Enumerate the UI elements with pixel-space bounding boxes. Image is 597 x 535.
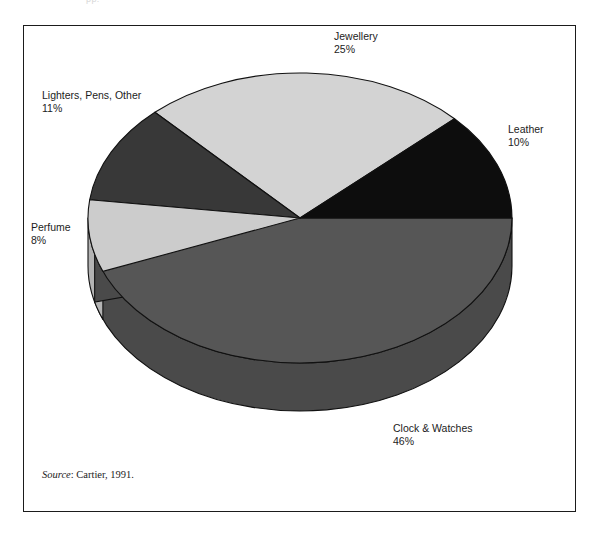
slice-label-jewellery-name: Jewellery [334,30,378,43]
slice-label-lighters-pens-other-name: Lighters, Pens, Other [42,89,141,102]
slice-label-clock-and-watches-name: Clock & Watches [393,422,473,435]
slice-label-perfume: Perfume 8% [31,221,71,246]
pie-chart-figure: Jewellery 25% Lighters, Pens, Other 11% … [0,0,597,535]
slice-label-jewellery-value: 25% [334,43,378,56]
slice-label-leather: Leather 10% [508,123,544,148]
source-note-text: Cartier, 1991. [76,469,134,480]
pie-chart-svg [0,0,597,535]
slice-label-clock-and-watches-value: 46% [393,435,473,448]
slice-label-lighters-pens-other-value: 11% [42,102,141,115]
source-note: Source: Cartier, 1991. [42,469,134,480]
slice-label-perfume-name: Perfume [31,221,71,234]
source-note-label: Source [42,469,71,480]
slice-label-lighters-pens-other: Lighters, Pens, Other 11% [42,89,141,114]
slice-label-jewellery: Jewellery 25% [334,30,378,55]
slice-label-perfume-value: 8% [31,234,71,247]
pie-geometry [88,73,512,411]
slice-label-leather-value: 10% [508,136,544,149]
slice-label-leather-name: Leather [508,123,544,136]
slice-label-clock-and-watches: Clock & Watches 46% [393,422,473,447]
